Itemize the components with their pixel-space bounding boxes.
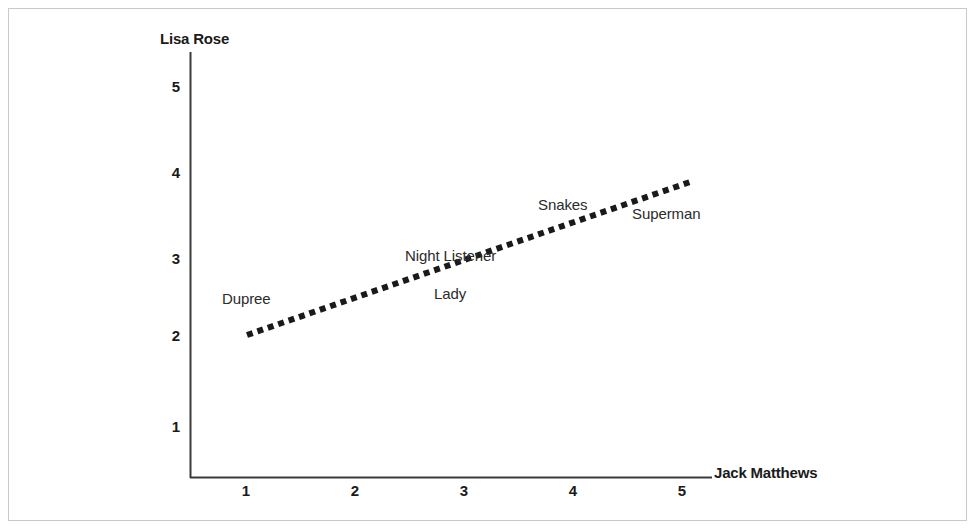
y-tick-label-4: 4 — [156, 164, 180, 181]
point-label-night-listener: Night Listener — [405, 247, 496, 264]
x-tick-label-2: 2 — [343, 482, 367, 499]
y-tick-label-3: 3 — [156, 250, 180, 267]
y-tick-label-2: 2 — [156, 327, 180, 344]
plot-area — [0, 0, 977, 531]
point-label-snakes: Snakes — [538, 196, 587, 213]
x-axis-title: Jack Matthews — [714, 464, 817, 481]
point-label-superman: Superman — [632, 205, 700, 222]
y-tick-label-1: 1 — [156, 418, 180, 435]
x-tick-label-4: 4 — [561, 482, 585, 499]
x-tick-label-1: 1 — [234, 482, 258, 499]
point-label-dupree: Dupree — [222, 290, 271, 307]
chart-figure: Lisa Rose Jack Matthews 5 4 3 2 1 1 2 3 … — [0, 0, 977, 531]
y-axis-title: Lisa Rose — [160, 30, 229, 47]
x-tick-label-5: 5 — [670, 482, 694, 499]
x-tick-label-3: 3 — [452, 482, 476, 499]
point-label-lady: Lady — [434, 285, 466, 302]
y-tick-label-5: 5 — [156, 78, 180, 95]
